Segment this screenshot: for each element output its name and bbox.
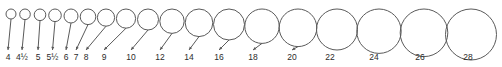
leader-line — [131, 30, 148, 50]
size-circle — [317, 9, 358, 50]
size-circle — [279, 9, 317, 47]
leader-line — [38, 21, 40, 50]
size-chart-diagram: 44½55½678910121416182022242628 — [0, 0, 502, 67]
size-label: 18 — [248, 52, 258, 62]
size-circle — [214, 9, 245, 40]
size-label: 14 — [184, 52, 194, 62]
size-labels-group: 44½55½678910121416182022242628 — [6, 52, 473, 62]
size-circle — [20, 9, 31, 20]
size-label: 20 — [287, 52, 297, 62]
size-label: 10 — [126, 52, 136, 62]
size-label: 7 — [74, 52, 79, 62]
size-label: 5½ — [47, 52, 59, 62]
size-label: 28 — [463, 52, 473, 62]
size-label: 24 — [369, 52, 379, 62]
leader-arrow-head — [37, 47, 40, 50]
size-circle — [97, 9, 114, 26]
size-circle — [64, 9, 78, 23]
size-label: 5 — [36, 52, 41, 62]
size-chart-svg: 44½55½678910121416182022242628 — [0, 0, 502, 67]
size-circle — [138, 9, 159, 30]
leader-line — [22, 20, 25, 50]
size-label: 16 — [214, 52, 224, 62]
size-circle — [34, 9, 46, 21]
leader-line — [53, 22, 56, 50]
size-circle — [185, 9, 213, 37]
size-label: 8 — [84, 52, 89, 62]
size-label: 9 — [102, 52, 107, 62]
size-label: 12 — [155, 52, 165, 62]
size-circle — [49, 9, 62, 22]
size-label: 22 — [325, 52, 335, 62]
size-circle — [245, 9, 279, 43]
leader-line — [76, 25, 88, 50]
size-label: 4 — [6, 52, 11, 62]
size-label: 26 — [415, 52, 425, 62]
leader-arrow-head — [51, 47, 54, 50]
size-circle — [400, 9, 448, 57]
size-circle — [357, 9, 401, 53]
size-circle — [116, 9, 135, 28]
size-circle — [6, 9, 16, 19]
leader-line — [8, 19, 11, 50]
leader-line — [104, 28, 126, 50]
size-label: 6 — [64, 52, 69, 62]
leader-lines-group — [7, 19, 298, 50]
size-circle — [80, 9, 96, 25]
size-label: 4½ — [16, 52, 28, 62]
leader-line — [86, 26, 106, 50]
leader-line — [66, 23, 71, 50]
size-circle — [160, 9, 184, 33]
